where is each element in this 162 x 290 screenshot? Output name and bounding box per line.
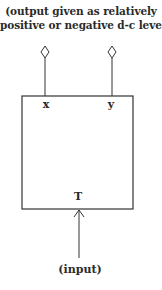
block-diagram bbox=[0, 0, 162, 290]
diamond-terminal-x-icon bbox=[41, 46, 49, 58]
input-label: (input) bbox=[40, 263, 120, 277]
block-label-T: T bbox=[71, 191, 85, 203]
output-label-x: x bbox=[40, 99, 52, 111]
output-label-y: y bbox=[105, 99, 117, 111]
diamond-terminal-y-icon bbox=[108, 46, 116, 58]
